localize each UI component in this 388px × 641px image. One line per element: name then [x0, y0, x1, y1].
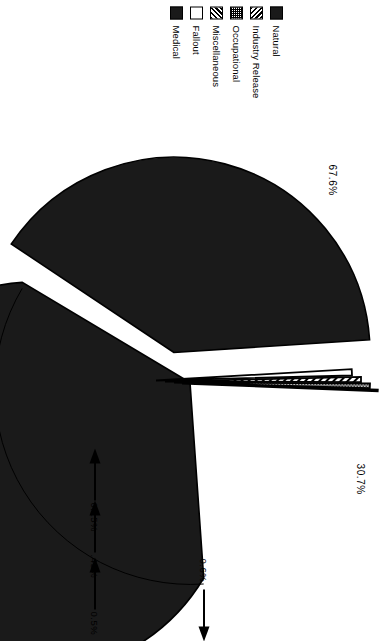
- legend-item-medical: Medical: [169, 6, 184, 98]
- callout-miscellaneous: 0.5%: [89, 557, 101, 635]
- legend-item-label: Medical: [172, 25, 182, 58]
- legend-item-miscellaneous: Miscellaneous: [209, 6, 224, 98]
- solid-black-swatch: [270, 6, 283, 19]
- legend-item-occupational: Occupational: [229, 6, 244, 98]
- solid-black-swatch: [170, 6, 183, 19]
- white-empty-swatch: [190, 6, 203, 19]
- arrow-left-icon: [89, 557, 101, 611]
- pie-svg: [0, 172, 388, 592]
- legend-item-label: Natural: [272, 25, 282, 56]
- arrow-left-icon: [89, 500, 101, 554]
- legend-item-label: Occupational: [232, 25, 242, 82]
- legend-item-label: Miscellaneous: [212, 25, 222, 87]
- label-medical-pct: 30.7%: [355, 463, 366, 494]
- legend-item-industry-release: Industry Release: [249, 6, 264, 98]
- legend-item-label: Industry Release: [252, 25, 262, 98]
- diagonal-hatch-left-swatch: [210, 6, 223, 19]
- legend-item-natural: Natural: [269, 6, 284, 98]
- diagonal-hatch-right-swatch: [250, 6, 263, 19]
- callout-fallout: 0.6%: [198, 558, 210, 641]
- label-natural-pct: 67.6%: [327, 164, 338, 195]
- arrow-left-icon: [89, 448, 101, 502]
- legend-item-fallout: Fallout: [189, 6, 204, 98]
- pie-graphic: [0, 172, 388, 592]
- callout-label: 0.5%: [90, 611, 101, 635]
- arrow-right-icon: [198, 587, 210, 641]
- legend-item-label: Fallout: [192, 25, 202, 54]
- callout-label: 0.6%: [199, 558, 210, 582]
- checker-dots-swatch: [230, 6, 243, 19]
- chart-legend: Natural Industry Release Occupational Mi…: [169, 6, 284, 98]
